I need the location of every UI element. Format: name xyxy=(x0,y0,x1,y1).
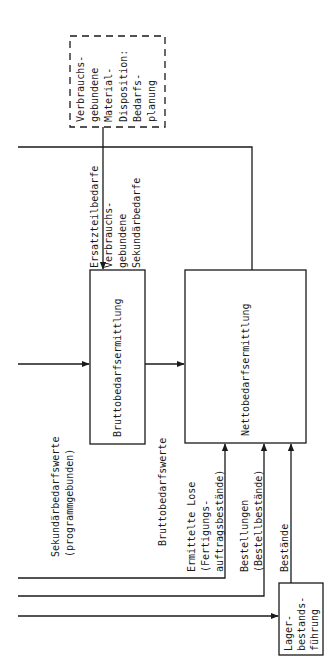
orders-line-2: (Bestellbestände) xyxy=(253,470,264,572)
gross-requirements-label: Bruttobedarfsermittlung xyxy=(112,299,123,437)
inventory-management-box: Lager- bestands- führung xyxy=(279,583,323,655)
gross-values-label: Bruttobedarfswerte xyxy=(157,438,168,546)
orders-line-1: Bestellungen xyxy=(239,500,250,572)
material-requirements-diagram: Verbrauchs- gebundene Material- Disposit… xyxy=(0,0,330,668)
secondary-values-line-2: (programmgebunden) xyxy=(64,449,75,557)
inventory-management-line-1: Lager- xyxy=(283,615,294,651)
consumption-planning-line-3: Material- xyxy=(103,68,114,122)
lots-line-3: auftragsbestände) xyxy=(214,470,225,572)
consumption-planning-line-2: gebundene xyxy=(89,68,100,122)
secondary-values-line-1: Sekundärbedarfswerte xyxy=(50,437,61,557)
consumption-planning-line-1: Verbrauchs- xyxy=(75,56,86,122)
net-requirements-label: Nettobedarfsermittlung xyxy=(240,304,251,436)
net-requirements-box: Nettobedarfsermittlung xyxy=(185,270,306,443)
inventory-management-line-2: bestands- xyxy=(296,597,307,651)
lots-line-2: (Fertigungs- xyxy=(200,500,211,572)
lots-line-1: Ermittelte Lose xyxy=(186,482,197,572)
inventory-management-line-3: führung xyxy=(309,609,320,651)
consumption-secondary-line-1: Verbrauchs- xyxy=(103,202,114,268)
spare-parts-label: Ersatzteilbedarfe xyxy=(89,166,100,268)
consumption-planning-line-6: planung xyxy=(146,80,157,122)
consumption-planning-line-4: Disposition: xyxy=(118,50,129,122)
consumption-secondary-line-2: gebundene xyxy=(117,214,128,268)
stocks-label: Bestände xyxy=(279,524,290,572)
consumption-secondary-line-3: Sekundärbedarfe xyxy=(131,178,142,268)
consumption-planning-box: Verbrauchs- gebundene Material- Disposit… xyxy=(70,36,165,127)
gross-requirements-box: Bruttobedarfsermittlung xyxy=(90,270,145,444)
consumption-planning-line-5: Bedarfs- xyxy=(132,74,143,122)
